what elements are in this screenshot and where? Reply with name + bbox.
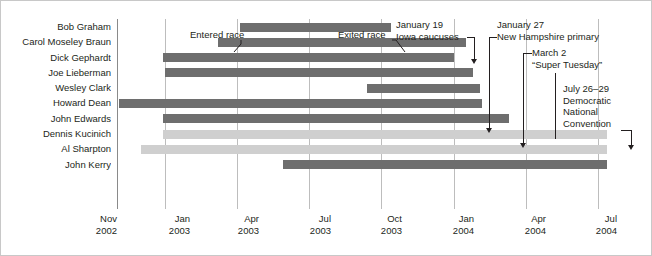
annotation-iowa-date: January 19 bbox=[396, 19, 459, 31]
y-axis-line bbox=[117, 19, 118, 209]
x-tick-year: 2004 bbox=[490, 225, 546, 237]
x-tick-month: Jan bbox=[134, 213, 190, 225]
x-tick-year: 2003 bbox=[203, 225, 259, 237]
x-tick-year: 2002 bbox=[61, 225, 117, 237]
annotation-dnc-date: July 26–29 bbox=[563, 83, 611, 95]
candidate-label-dick-gephardt: Dick Gephardt bbox=[1, 50, 111, 65]
dnc-leader-horizontal bbox=[621, 130, 631, 131]
iowa-arrow-icon bbox=[471, 59, 477, 64]
iowa-leader-vertical bbox=[474, 37, 475, 61]
x-tick-month: Apr bbox=[203, 213, 259, 225]
dnc-arrow-icon bbox=[628, 145, 634, 150]
annotation-iowa-caucuses: January 19 Iowa caucuses bbox=[396, 19, 459, 42]
x-tick-jan-2003: Jan 2003 bbox=[134, 213, 190, 236]
annotation-iowa-event: Iowa caucuses bbox=[396, 31, 459, 43]
x-tick-nov-2002: Nov 2002 bbox=[61, 213, 117, 236]
bar-john-kerry bbox=[283, 160, 608, 169]
bar-joe-lieberman bbox=[165, 68, 473, 77]
x-axis-ticks: Nov 2002 Jan 2003 Apr 2003 Jul 2003 Oct … bbox=[1, 213, 652, 253]
candidate-label-john-edwards: John Edwards bbox=[1, 111, 111, 126]
annotation-nh-date: January 27 bbox=[497, 19, 599, 31]
annotation-super-tuesday: March 2 “Super Tuesday” bbox=[532, 47, 602, 70]
x-tick-year: 2004 bbox=[561, 225, 617, 237]
x-tick-month: Nov bbox=[61, 213, 117, 225]
gridline-apr-2004 bbox=[526, 19, 527, 209]
super-leader-vertical bbox=[523, 53, 524, 145]
x-tick-jul-2004: Jul 2004 bbox=[561, 213, 617, 236]
annotation-dnc-line3: National bbox=[563, 106, 611, 118]
super-tuesday-arrow-icon bbox=[520, 143, 526, 148]
annotation-nh-event: New Hampshire primary bbox=[497, 31, 599, 43]
bar-al-sharpton bbox=[141, 145, 607, 154]
candidate-label-carol-moseley-braun: Carol Moseley Braun bbox=[1, 34, 111, 49]
candidate-label-joe-lieberman: Joe Lieberman bbox=[1, 65, 111, 80]
candidate-name-axis: Bob Graham Carol Moseley Braun Dick Geph… bbox=[1, 19, 111, 172]
x-tick-month: Jan bbox=[418, 213, 474, 225]
x-tick-jan-2004: Jan 2004 bbox=[418, 213, 474, 236]
x-tick-year: 2003 bbox=[275, 225, 331, 237]
timeline-chart-figure: Bob Graham Carol Moseley Braun Dick Geph… bbox=[0, 0, 652, 256]
annotation-exited-race-text: Exited race bbox=[338, 29, 386, 41]
x-tick-month: Apr bbox=[490, 213, 546, 225]
x-tick-year: 2003 bbox=[134, 225, 190, 237]
bar-howard-dean bbox=[119, 99, 482, 108]
annotation-super-event: “Super Tuesday” bbox=[532, 59, 602, 71]
bar-dennis-kucinich bbox=[163, 130, 608, 139]
bar-john-edwards bbox=[163, 114, 509, 123]
annotation-dnc-line4: Convention bbox=[563, 118, 611, 130]
x-tick-apr-2004: Apr 2004 bbox=[490, 213, 546, 236]
candidate-label-john-kerry: John Kerry bbox=[1, 157, 111, 172]
nh-leader-horizontal bbox=[489, 37, 497, 38]
candidate-label-howard-dean: Howard Dean bbox=[1, 95, 111, 110]
bar-wesley-clark bbox=[367, 84, 480, 93]
super-leader-horizontal bbox=[523, 53, 532, 54]
x-tick-jul-2003: Jul 2003 bbox=[275, 213, 331, 236]
candidate-label-bob-graham: Bob Graham bbox=[1, 19, 111, 34]
x-tick-oct-2003: Oct 2003 bbox=[346, 213, 402, 236]
candidate-label-wesley-clark: Wesley Clark bbox=[1, 80, 111, 95]
entered-race-leader-line bbox=[233, 39, 249, 53]
annotation-exited-race: Exited race bbox=[338, 29, 386, 41]
nh-leader-vertical bbox=[489, 37, 490, 130]
candidate-label-al-sharpton: Al Sharpton bbox=[1, 141, 111, 156]
bar-dick-gephardt bbox=[163, 53, 454, 62]
annotation-super-date: March 2 bbox=[532, 47, 602, 59]
nh-arrow-icon bbox=[486, 128, 492, 133]
annotation-new-hampshire: January 27 New Hampshire primary bbox=[497, 19, 599, 42]
annotation-dnc-convention: July 26–29 Democratic National Conventio… bbox=[563, 83, 611, 129]
x-tick-month: Oct bbox=[346, 213, 402, 225]
x-tick-year: 2004 bbox=[418, 225, 474, 237]
annotation-dnc-line2: Democratic bbox=[563, 95, 611, 107]
x-tick-month: Jul bbox=[561, 213, 617, 225]
candidate-label-dennis-kucinich: Dennis Kucinich bbox=[1, 126, 111, 141]
x-tick-apr-2003: Apr 2003 bbox=[203, 213, 259, 236]
x-tick-month: Jul bbox=[275, 213, 331, 225]
x-tick-year: 2003 bbox=[346, 225, 402, 237]
dnc-leader-left-bracket bbox=[555, 73, 556, 139]
